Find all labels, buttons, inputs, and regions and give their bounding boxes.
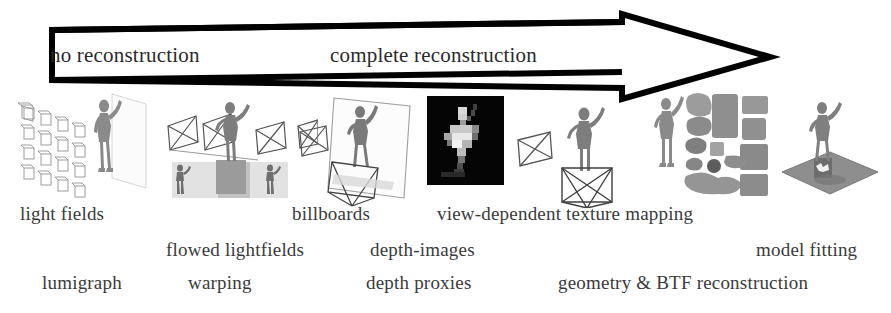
caption-view-dependent-texture-mapping: view-dependent texture mapping — [437, 203, 693, 225]
illustration-billboard-plane — [298, 92, 428, 210]
arrow-bottom-bar — [52, 69, 622, 83]
illustration-depth-image-map — [427, 96, 504, 185]
illustration-light-field-camera-array — [14, 92, 164, 202]
arrow-label-complete-reconstruction: complete reconstruction — [330, 43, 537, 68]
reconstruction-spectrum-figure: no reconstruction complete reconstructio… — [0, 0, 891, 313]
caption-depth-images: depth-images — [370, 239, 475, 261]
caption-model-fitting: model fitting — [756, 239, 857, 261]
arrow-top-bar — [52, 19, 622, 33]
illustration-depth-proxy-frustums — [508, 98, 638, 208]
caption-warping: warping — [188, 272, 252, 294]
caption-light-fields: light fields — [20, 203, 104, 225]
illustration-flowed-lightfield-cameras — [158, 98, 318, 206]
caption-flowed-lightfields: flowed lightfields — [166, 239, 304, 261]
caption-billboards: billboards — [292, 203, 370, 225]
illustration-fitted-model-on-ground-plane — [774, 100, 884, 200]
texture-chart-patches — [685, 93, 769, 196]
caption-depth-proxies: depth proxies — [366, 272, 472, 294]
caption-geometry-btf-reconstruction: geometry & BTF reconstruction — [558, 272, 808, 294]
arrow-label-no-reconstruction: no reconstruction — [50, 43, 200, 68]
atlas-reference-figure — [654, 96, 684, 167]
illustration-btf-texture-atlas — [652, 90, 774, 206]
caption-lumigraph: lumigraph — [42, 272, 122, 294]
